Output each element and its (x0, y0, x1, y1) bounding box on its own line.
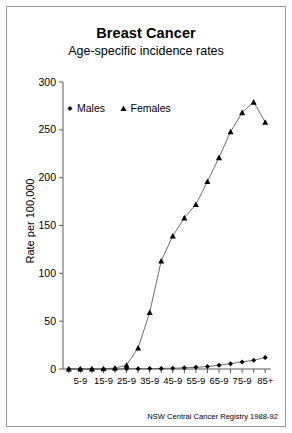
x-tick-label: 65-9 (209, 375, 228, 386)
y-tick-label: 300 (38, 76, 56, 88)
data-point-females (204, 178, 210, 184)
data-series-group (66, 99, 268, 371)
data-point-females (262, 119, 268, 125)
series-line-males (69, 358, 265, 369)
data-point-males (263, 355, 268, 360)
x-tick-label: 55-9 (186, 375, 205, 386)
legend-label: Males (77, 102, 105, 114)
x-tick-label: 25-9 (117, 375, 136, 386)
data-point-males (228, 361, 233, 366)
x-tick-label: 85+ (257, 375, 274, 386)
y-tick-label: 150 (38, 219, 56, 231)
data-point-females (193, 201, 199, 207)
series-line-females (69, 102, 265, 369)
data-point-females (228, 129, 234, 135)
data-point-females (251, 99, 257, 105)
y-tick-label: 100 (38, 267, 56, 279)
y-tick-label: 200 (38, 171, 56, 183)
chart-legend: MalesFemales (68, 102, 171, 114)
data-point-males (240, 359, 245, 364)
source-note: NSW Central Cancer Registry 1988-92 (147, 412, 278, 421)
y-tick-label: 50 (44, 315, 56, 327)
y-tick-label: 250 (38, 123, 56, 135)
y-axis: 050100150200250300 (38, 76, 63, 375)
data-point-females (216, 155, 222, 161)
x-tick-label: 15-9 (94, 375, 113, 386)
data-point-males (182, 365, 187, 370)
data-point-females (135, 345, 141, 351)
data-point-males (205, 364, 210, 369)
data-point-males (136, 366, 141, 371)
data-point-females (158, 258, 164, 264)
x-tick-label: 75-9 (233, 375, 252, 386)
plot-area: 050100150200250300 5-915-925-935-945-955… (0, 0, 292, 433)
data-point-males (170, 366, 175, 371)
x-tick-label: 45-9 (163, 375, 182, 386)
data-point-males (147, 366, 152, 371)
data-point-females (170, 233, 176, 239)
data-point-males (159, 366, 164, 371)
legend-marker (68, 106, 73, 111)
y-tick-label: 0 (50, 363, 56, 375)
data-point-males (251, 358, 256, 363)
legend-label: Females (131, 102, 171, 114)
x-tick-label: 5-9 (73, 375, 87, 386)
data-point-males (217, 363, 222, 368)
legend-marker (121, 106, 127, 112)
x-tick-label: 35-9 (140, 375, 159, 386)
data-point-females (124, 362, 130, 368)
chart-figure: Breast Cancer Age-specific incidence rat… (0, 0, 292, 433)
data-point-females (147, 310, 153, 316)
